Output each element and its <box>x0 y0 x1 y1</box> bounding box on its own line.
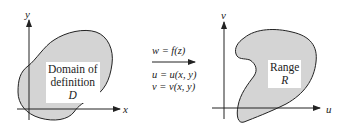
range-label: Range R <box>268 60 301 88</box>
u-equation: u = u(x, y) <box>152 69 196 81</box>
domain-label: Domain of definition D <box>46 62 100 103</box>
v-axis-label: v <box>221 9 226 21</box>
range-symbol: R <box>270 74 299 87</box>
domain-label-line2: definition <box>48 76 98 89</box>
domain-symbol: D <box>48 89 98 102</box>
u-axis-label: u <box>326 103 332 115</box>
function-equation: w = f(z) <box>152 45 185 57</box>
v-equation: v = v(x, y) <box>152 81 195 93</box>
range-label-text: Range <box>270 61 299 74</box>
domain-label-line1: Domain of <box>48 63 98 76</box>
y-axis-label: y <box>25 8 30 20</box>
x-axis-label: x <box>123 103 128 115</box>
